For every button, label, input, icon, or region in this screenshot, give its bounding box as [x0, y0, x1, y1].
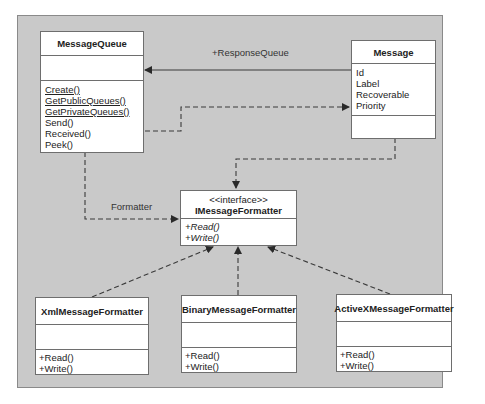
class-message-queue[interactable]: MessageQueue Create() GetPublicQueues() … — [40, 31, 144, 153]
method-read: +Read() — [185, 350, 292, 361]
class-xml-message-formatter[interactable]: XmlMessageFormatter +Read() +Write() — [35, 297, 149, 375]
methods-section: +Read() +Write() — [182, 348, 296, 374]
class-message[interactable]: Message Id Label Recoverable Priority — [351, 40, 436, 139]
attributes-section — [337, 322, 451, 347]
methods-section: +Read() +Write() — [337, 347, 451, 373]
class-activex-message-formatter[interactable]: ActiveXMessageFormatter +Read() +Write() — [336, 294, 452, 372]
attributes-section — [36, 325, 148, 350]
stereotype-label: <<interface>> — [209, 194, 268, 205]
interface-imessage-formatter[interactable]: <<interface>> IMessageFormatter +Read() … — [180, 190, 297, 246]
method-received: Received() — [45, 128, 139, 139]
attributes-section: Id Label Recoverable Priority — [352, 64, 435, 116]
class-title: Message — [352, 41, 435, 64]
attributes-section — [182, 323, 296, 348]
message-to-formatter-dependency — [236, 138, 395, 188]
method-write: +Write() — [185, 361, 292, 372]
class-binary-message-formatter[interactable]: BinaryMessageFormatter +Read() +Write() — [181, 295, 297, 373]
methods-section — [352, 116, 435, 120]
interface-name: IMessageFormatter — [195, 205, 282, 216]
attribute-recoverable: Recoverable — [356, 89, 431, 100]
method-write: +Write() — [340, 360, 447, 371]
xml-realization — [92, 247, 213, 297]
method-read: +Read() — [340, 349, 447, 360]
methods-section: Create() GetPublicQueues() GetPrivateQue… — [41, 81, 143, 152]
method-create: Create() — [45, 84, 139, 95]
class-title: ActiveXMessageFormatter — [337, 295, 451, 322]
activex-realization — [268, 247, 390, 294]
class-title: BinaryMessageFormatter — [182, 296, 296, 323]
method-send: Send() — [45, 117, 139, 128]
interface-title: <<interface>> IMessageFormatter — [181, 191, 296, 219]
method-read: +Read() — [185, 221, 292, 232]
method-get-private-queues: GetPrivateQueues() — [45, 106, 139, 117]
attributes-section — [41, 56, 143, 81]
attribute-label: Label — [356, 78, 431, 89]
attribute-id: Id — [356, 67, 431, 78]
methods-section: +Read() +Write() — [181, 219, 296, 245]
formatter-label: Formatter — [111, 201, 152, 212]
method-get-public-queues: GetPublicQueues() — [45, 95, 139, 106]
class-title: XmlMessageFormatter — [36, 298, 148, 325]
method-read: +Read() — [39, 352, 144, 363]
response-queue-label: +ResponseQueue — [212, 47, 289, 58]
class-title: MessageQueue — [41, 32, 143, 56]
method-write: +Write() — [39, 363, 144, 374]
queue-to-message-dependency — [145, 107, 349, 131]
method-peek: Peek() — [45, 139, 139, 150]
attribute-priority: Priority — [356, 100, 431, 111]
method-write: +Write() — [185, 232, 292, 243]
methods-section: +Read() +Write() — [36, 350, 148, 376]
